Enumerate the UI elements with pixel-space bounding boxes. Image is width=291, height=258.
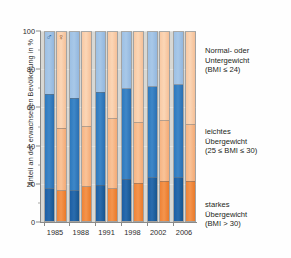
segment-obese-female-1988: [82, 187, 91, 221]
bar-male-1998[interactable]: [121, 31, 132, 222]
segment-divider-1-female-1991: [108, 118, 117, 119]
segment-obese-female-1991: [108, 189, 117, 221]
segment-divider-1-female-1998: [134, 122, 143, 123]
legend-item-overweight: leichtes Übergewicht (25 ≤ BMI ≤ 30): [205, 127, 291, 156]
bar-female-1988[interactable]: [81, 31, 92, 222]
segment-divider-0-male-2006: [174, 177, 183, 178]
segment-normal-female-1998: [134, 32, 143, 123]
bar-male-1985[interactable]: [44, 31, 55, 222]
segment-normal-female-1988: [82, 32, 91, 127]
legend-obese-line3: (BMI > 30): [205, 219, 291, 229]
segment-normal-male-2006: [174, 32, 183, 85]
female-symbol-icon: ♀: [56, 33, 67, 42]
legend-item-normal-weight: Normal- oder Untergewicht (BMI ≤ 24): [205, 46, 291, 75]
segment-divider-0-female-2006: [186, 181, 195, 182]
bar-group-1998: [121, 31, 144, 222]
legend-over-line1: leichtes: [205, 127, 291, 137]
x-tick-mark-1991: [95, 222, 96, 226]
segment-overweight-male-2002: [148, 87, 157, 178]
y-tick-label-20: 20: [27, 179, 35, 188]
segment-normal-male-1998: [122, 32, 131, 89]
segment-divider-0-male-1998: [122, 179, 131, 180]
male-symbol-icon: ♂: [44, 33, 55, 42]
bar-group-1988: [69, 31, 92, 222]
segment-normal-female-2002: [160, 32, 169, 121]
segment-divider-1-female-2002: [160, 120, 169, 121]
legend-obese-line1: starkes: [205, 200, 291, 210]
segment-divider-1-male-1998: [122, 88, 131, 89]
segment-obese-female-1985: [57, 191, 66, 221]
legend-normal-line3: (BMI ≤ 24): [205, 65, 291, 75]
segment-normal-female-1991: [108, 32, 117, 119]
bar-male-1991[interactable]: [95, 31, 106, 222]
segment-obese-female-2002: [160, 181, 169, 221]
segment-obese-male-2006: [174, 178, 183, 221]
y-tick-label-80: 80: [27, 65, 35, 74]
plot-area: ♂♀: [41, 31, 196, 222]
segment-overweight-male-1985: [45, 94, 54, 189]
segment-divider-1-male-2006: [174, 84, 183, 85]
x-tick-mark-2006: [173, 222, 174, 226]
segment-overweight-female-1988: [82, 127, 91, 187]
segment-obese-male-1998: [122, 179, 131, 221]
segment-overweight-female-1991: [108, 119, 117, 189]
segment-normal-female-1985: [57, 32, 66, 128]
bar-group-2002: [147, 31, 170, 222]
segment-divider-1-female-1988: [82, 126, 91, 127]
x-tick-mark-1985: [44, 222, 45, 226]
legend-normal-line2: Untergewicht: [205, 56, 291, 66]
y-tick-label-40: 40: [27, 141, 35, 150]
bar-female-2002[interactable]: [159, 31, 170, 222]
segment-overweight-male-1991: [96, 92, 105, 185]
segment-overweight-male-1998: [122, 89, 131, 180]
bar-male-1988[interactable]: [69, 31, 80, 222]
segment-divider-0-female-2002: [160, 181, 169, 182]
segment-divider-1-male-1988: [70, 98, 79, 99]
y-tick-label-100: 100: [23, 27, 35, 36]
bar-group-2006: [173, 31, 196, 222]
segment-divider-0-male-1991: [96, 185, 105, 186]
segment-divider-1-male-2002: [148, 86, 157, 87]
bar-female-1998[interactable]: [133, 31, 144, 222]
x-tick-mark-2002: [147, 222, 148, 226]
bar-female-1991[interactable]: [107, 31, 118, 222]
segment-divider-0-male-2002: [148, 177, 157, 178]
segment-obese-female-1998: [134, 183, 143, 221]
segment-overweight-female-2006: [186, 125, 195, 182]
bar-group-1985: ♂♀: [44, 31, 67, 222]
bar-group-1991: [95, 31, 118, 222]
legend-obese-line2: Übergewicht: [205, 210, 291, 220]
legend-over-line3: (25 ≤ BMI ≤ 30): [205, 146, 291, 156]
bar-male-2006[interactable]: [173, 31, 184, 222]
segment-overweight-male-2006: [174, 85, 183, 178]
segment-overweight-male-1988: [70, 98, 79, 191]
chart-figure: Anteil an der erwachsenen Bevölkerung in…: [0, 0, 291, 258]
segment-overweight-female-1998: [134, 123, 143, 183]
segment-divider-1-male-1991: [96, 92, 105, 93]
y-axis-ticks: 100806040200: [0, 0, 41, 258]
segment-obese-female-2006: [186, 181, 195, 221]
y-tick-label-0: 0: [31, 218, 35, 227]
segment-overweight-female-2002: [160, 121, 169, 181]
segment-obese-male-1988: [70, 191, 79, 221]
segment-divider-0-female-1988: [82, 186, 91, 187]
segment-divider-0-male-1985: [45, 188, 54, 189]
segment-divider-0-female-1998: [134, 183, 143, 184]
segment-obese-male-1991: [96, 185, 105, 221]
segment-normal-male-2002: [148, 32, 157, 87]
segment-obese-male-2002: [148, 178, 157, 221]
segment-divider-1-female-1985: [57, 128, 66, 129]
segment-overweight-female-1985: [57, 128, 66, 190]
segment-normal-male-1988: [70, 32, 79, 98]
y-tick-label-60: 60: [27, 103, 35, 112]
segment-normal-female-2006: [186, 32, 195, 125]
segment-obese-male-1985: [45, 189, 54, 221]
legend-item-obesity: starkes Übergewicht (BMI > 30): [205, 200, 291, 229]
bar-female-1985[interactable]: [56, 31, 67, 222]
segment-divider-0-female-1985: [57, 190, 66, 191]
segment-divider-1-female-2006: [186, 124, 195, 125]
segment-divider-1-male-1985: [45, 94, 54, 95]
bar-male-2002[interactable]: [147, 31, 158, 222]
x-tick-mark-1998: [121, 222, 122, 226]
bar-female-2006[interactable]: [185, 31, 196, 222]
